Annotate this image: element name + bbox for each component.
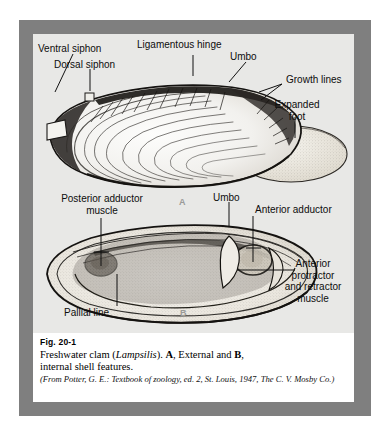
- illustration-plate: Ventral siphon Dorsal siphon Ligamentous…: [33, 34, 354, 333]
- caption-line2: internal shell features.: [40, 361, 133, 372]
- figure-page: Ventral siphon Dorsal siphon Ligamentous…: [0, 0, 375, 437]
- figure-caption: Fig. 20-1 Freshwater clam (Lampsilis). A…: [33, 333, 354, 402]
- caption-text: Freshwater clam (Lampsilis). A, External…: [40, 349, 348, 372]
- caption-tail: ,: [241, 349, 244, 360]
- caption-panel-a-ref: A: [165, 349, 173, 360]
- caption-mid2: , External and: [173, 349, 234, 360]
- pallial-line-leader: [33, 34, 354, 333]
- caption-lead: Freshwater clam (: [40, 349, 116, 360]
- figure-number: Fig. 20-1: [40, 337, 348, 348]
- caption-source: (From Potter, G. E.: Textbook of zoology…: [40, 374, 348, 384]
- panel-label-b: B: [180, 308, 187, 318]
- caption-genus: Lampsilis: [116, 349, 157, 360]
